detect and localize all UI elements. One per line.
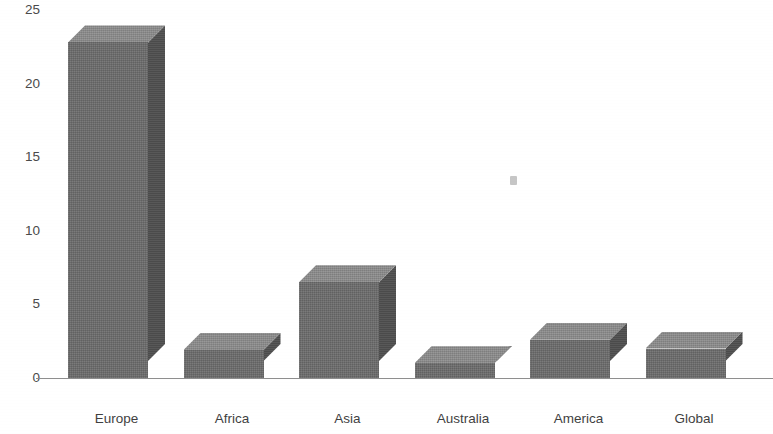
- y-axis-tick-label: 5: [0, 297, 40, 311]
- y-axis-tick-label: 0: [0, 371, 40, 385]
- x-axis-tick-label: Australia: [403, 412, 523, 426]
- plot-area: [43, 0, 773, 400]
- bar-europe: [68, 25, 165, 378]
- y-axis-tick-label: 20: [0, 77, 40, 91]
- bar-front-face: [184, 350, 264, 378]
- bar-chart: 2520151050 EuropeAfricaAsiaAustraliaAmer…: [0, 0, 773, 434]
- bar-australia: [415, 346, 512, 378]
- bar-africa: [184, 333, 281, 378]
- bar-front-face: [415, 363, 495, 378]
- y-axis-tick-label: 25: [0, 3, 40, 17]
- x-axis-baseline: [43, 378, 773, 379]
- bar-top-face: [415, 346, 512, 363]
- bar-front-face: [646, 349, 726, 378]
- x-axis-tick-label: America: [519, 412, 639, 426]
- bar-america: [530, 323, 627, 378]
- scan-artifact-speck: [510, 176, 517, 185]
- x-axis: EuropeAfricaAsiaAustraliaAmericaGlobal: [0, 404, 773, 434]
- x-axis-tick-label: Europe: [57, 412, 177, 426]
- bar-side-face: [148, 25, 165, 361]
- y-axis: 2520151050: [0, 0, 40, 434]
- y-axis-tick-label: 10: [0, 224, 40, 238]
- y-axis-tick-label: 15: [0, 150, 40, 164]
- bar-global: [646, 332, 743, 378]
- y-axis-zero-tick: [36, 378, 43, 379]
- bar-front-face: [530, 340, 610, 378]
- x-axis-tick-label: Africa: [172, 412, 292, 426]
- bar-top-face: [68, 25, 165, 42]
- x-axis-tick-label: Global: [634, 412, 754, 426]
- bar-top-face: [299, 265, 396, 282]
- bar-top-face: [530, 323, 627, 340]
- bar-front-face: [299, 282, 379, 378]
- bar-asia: [299, 265, 396, 378]
- x-axis-tick-label: Asia: [288, 412, 408, 426]
- bar-front-face: [68, 42, 148, 378]
- bar-top-face: [184, 333, 281, 350]
- bar-top-face: [646, 332, 743, 349]
